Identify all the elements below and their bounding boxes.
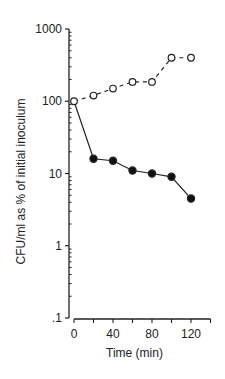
x-tick-label: 0 (71, 327, 78, 341)
filled-circle-marker (187, 195, 194, 202)
filled-circle-marker (168, 173, 175, 180)
x-tick-label: 120 (181, 327, 201, 341)
x-tick-label: 80 (145, 327, 159, 341)
filled-circle-marker (90, 155, 97, 162)
open-circle-marker (90, 92, 97, 99)
open-circle-marker (149, 79, 156, 86)
x-axis-title: Time (min) (106, 346, 163, 360)
y-tick-label: 1000 (35, 22, 62, 36)
open-circle-marker (188, 54, 195, 61)
y-axis-title: CFU/ml as % of initial inoculum (14, 98, 28, 264)
open-circle-marker (110, 85, 117, 92)
y-tick-label: 1 (55, 239, 62, 253)
solid-series-line (74, 101, 191, 198)
filled-circle-marker (148, 170, 155, 177)
y-tick-label: 10 (49, 167, 63, 181)
y-tick-label: .1 (52, 311, 62, 325)
plot-series (71, 54, 195, 202)
filled-circle-marker (129, 167, 136, 174)
chart-canvas: .1110100100004080120Time (min)CFU/ml as … (0, 0, 225, 379)
x-tick-label: 40 (106, 327, 120, 341)
y-tick-label: 100 (42, 94, 62, 108)
axis-labels: .1110100100004080120Time (min)CFU/ml as … (14, 22, 201, 360)
open-circle-marker (129, 79, 136, 86)
axes (65, 29, 211, 323)
filled-circle-marker (109, 157, 116, 164)
open-circle-marker (168, 54, 175, 61)
open-circle-marker (71, 98, 78, 105)
